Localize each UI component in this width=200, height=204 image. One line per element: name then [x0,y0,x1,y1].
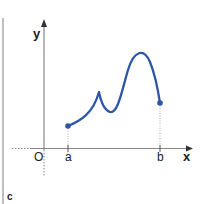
origin-label: O [34,150,43,164]
a-label: a [65,150,72,164]
panel-label: c [7,191,13,202]
y-axis-label: y [33,26,41,41]
endpoint-b [157,100,163,106]
y-axis-arrow-icon [41,19,47,27]
function-graph: y x O a b c [0,0,200,204]
endpoint-a [65,123,71,129]
b-label: b [157,150,164,164]
function-curve [68,53,160,126]
x-axis-label: x [183,149,191,164]
